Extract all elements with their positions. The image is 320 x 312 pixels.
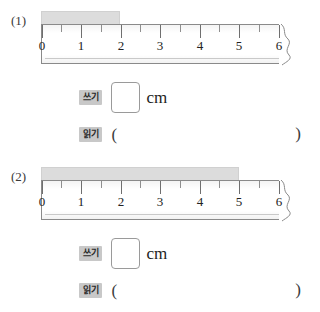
problem-2: (2) 0 1 2 3 4 5 6 쓰기 cm	[0, 156, 320, 312]
ruler-tick-major	[239, 181, 240, 194]
write-tag-2: 쓰기	[79, 246, 102, 261]
ruler-tick-major	[160, 181, 161, 194]
ruler-tick-major	[200, 181, 201, 194]
ruler-tick-label: 4	[197, 38, 204, 53]
ruler-break-icon-1	[280, 24, 296, 64]
ruler-tick-minor	[259, 25, 260, 32]
measure-bar-2	[41, 167, 239, 180]
write-answer-box-2[interactable]	[111, 238, 140, 269]
ruler-tick-minor	[140, 181, 141, 188]
measure-bar-1	[41, 11, 120, 24]
paren-close-1: )	[295, 125, 301, 142]
unit-label-2: cm	[146, 245, 167, 262]
read-answer-row-2: 읽기 ( )	[79, 282, 301, 299]
ruler-tick-minor	[101, 181, 102, 188]
problem-1: (1) 0 1 2 3 4 5 6 쓰기 cm	[0, 0, 320, 156]
problem-index-1: (1)	[11, 13, 26, 29]
ruler-tick-major	[121, 25, 122, 38]
ruler-tick-label: 4	[197, 194, 204, 209]
ruler-tick-minor	[219, 181, 220, 188]
ruler-tick-label: 5	[236, 38, 243, 53]
ruler-tick-major	[200, 25, 201, 38]
ruler-tick-major	[42, 181, 43, 194]
ruler-tick-label: 5	[236, 194, 243, 209]
ruler-edge-line-1	[45, 58, 279, 59]
ruler-tick-major	[160, 25, 161, 38]
write-tag-1: 쓰기	[79, 90, 102, 105]
write-answer-row-2: 쓰기 cm	[79, 238, 167, 269]
ruler-tick-minor	[61, 181, 62, 188]
read-tag-2: 읽기	[79, 283, 102, 298]
unit-label-1: cm	[146, 89, 167, 106]
ruler-tick-major	[81, 181, 82, 194]
ruler-tick-label: 2	[118, 38, 125, 53]
write-answer-row-1: 쓰기 cm	[79, 82, 167, 113]
problem-index-2: (2)	[11, 169, 26, 185]
ruler-tick-major	[81, 25, 82, 38]
ruler-tick-minor	[180, 25, 181, 32]
ruler-1: 0 1 2 3 4 5 6	[41, 24, 279, 64]
ruler-edge-line-2	[45, 214, 279, 215]
ruler-tick-label: 2	[118, 194, 125, 209]
read-tag-1: 읽기	[79, 127, 102, 142]
ruler-tick-label: 0	[39, 38, 46, 53]
ruler-tick-minor	[219, 25, 220, 32]
ruler-tick-major	[42, 25, 43, 38]
ruler-tick-major	[121, 181, 122, 194]
ruler-tick-label: 0	[39, 194, 46, 209]
paren-open-2: (	[111, 282, 117, 299]
paren-close-2: )	[295, 281, 301, 298]
ruler-tick-label: 3	[157, 194, 164, 209]
ruler-tick-label: 3	[157, 38, 164, 53]
ruler-tick-minor	[61, 25, 62, 32]
ruler-tick-minor	[101, 25, 102, 32]
ruler-tick-label: 1	[78, 194, 85, 209]
write-answer-box-1[interactable]	[111, 82, 140, 113]
ruler-tick-label: 1	[78, 38, 85, 53]
ruler-tick-minor	[180, 181, 181, 188]
paren-open-1: (	[111, 126, 117, 143]
ruler-tick-minor	[140, 25, 141, 32]
ruler-break-icon-2	[280, 180, 296, 220]
ruler-2: 0 1 2 3 4 5 6	[41, 180, 279, 220]
ruler-tick-major	[239, 25, 240, 38]
ruler-tick-minor	[259, 181, 260, 188]
read-answer-row-1: 읽기 ( )	[79, 126, 301, 143]
